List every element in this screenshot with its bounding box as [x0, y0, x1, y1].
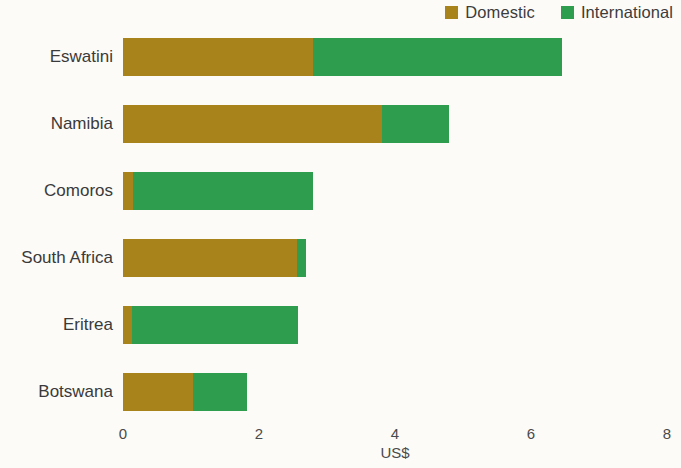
x-axis-tick-1: 2: [239, 424, 279, 444]
legend-swatch-international: [561, 6, 574, 19]
chart-legend: Domestic International: [445, 4, 673, 21]
table-row[interactable]: [123, 172, 313, 210]
table-row[interactable]: [123, 373, 247, 411]
legend-swatch-domestic: [445, 6, 458, 19]
y-axis-label-3: South Africa: [0, 239, 113, 277]
x-axis-tick-2: 4: [375, 424, 415, 444]
y-axis-label-1: Namibia: [0, 105, 113, 143]
bar-segment-domestic[interactable]: [123, 373, 193, 411]
x-axis: 0 2 4 6 8: [123, 424, 667, 446]
y-axis-label-4: Eritrea: [0, 306, 113, 344]
legend-item-international[interactable]: International: [561, 4, 673, 21]
y-axis-label-2: Comoros: [0, 172, 113, 210]
plot-area: [123, 30, 667, 422]
bar-segment-domestic[interactable]: [123, 239, 297, 277]
bar-segment-international[interactable]: [297, 239, 306, 277]
bar-segment-domestic[interactable]: [123, 172, 133, 210]
bar-segment-domestic[interactable]: [123, 306, 132, 344]
bar-segment-international[interactable]: [313, 38, 561, 76]
bar-segment-domestic[interactable]: [123, 38, 313, 76]
x-axis-tick-0: 0: [103, 424, 143, 444]
table-row[interactable]: [123, 306, 298, 344]
x-axis-title: US$: [380, 444, 409, 461]
x-axis-tick-4: 8: [647, 424, 681, 444]
bar-segment-international[interactable]: [132, 306, 298, 344]
x-axis-tick-3: 6: [511, 424, 551, 444]
bar-segment-international[interactable]: [382, 105, 449, 143]
y-axis-label-5: Botswana: [0, 373, 113, 411]
bar-segment-domestic[interactable]: [123, 105, 382, 143]
table-row[interactable]: [123, 38, 562, 76]
legend-label-international: International: [581, 4, 673, 21]
legend-label-domestic: Domestic: [465, 4, 535, 21]
stacked-bar-chart: Domestic International Eswatini Namibia …: [0, 0, 681, 468]
y-axis-label-0: Eswatini: [0, 38, 113, 76]
bar-segment-international[interactable]: [133, 172, 313, 210]
table-row[interactable]: [123, 239, 306, 277]
table-row[interactable]: [123, 105, 449, 143]
y-axis-category-labels: Eswatini Namibia Comoros South Africa Er…: [0, 30, 113, 422]
x-axis-title-wrapper: US$: [123, 444, 667, 462]
legend-item-domestic[interactable]: Domestic: [445, 4, 535, 21]
bar-segment-international[interactable]: [193, 373, 247, 411]
